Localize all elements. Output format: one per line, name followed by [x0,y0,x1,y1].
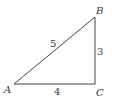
triangle-svg: A B C 5 3 4 [0,0,123,100]
side-label-bc: 3 [97,46,103,57]
vertex-label-a: A [3,84,11,95]
side-label-ac: 4 [54,86,60,97]
triangle-abc [14,17,95,84]
vertex-label-b: B [95,5,103,16]
right-triangle-diagram: A B C 5 3 4 [0,0,123,100]
vertex-label-c: C [96,87,104,98]
side-label-ab: 5 [50,38,56,49]
